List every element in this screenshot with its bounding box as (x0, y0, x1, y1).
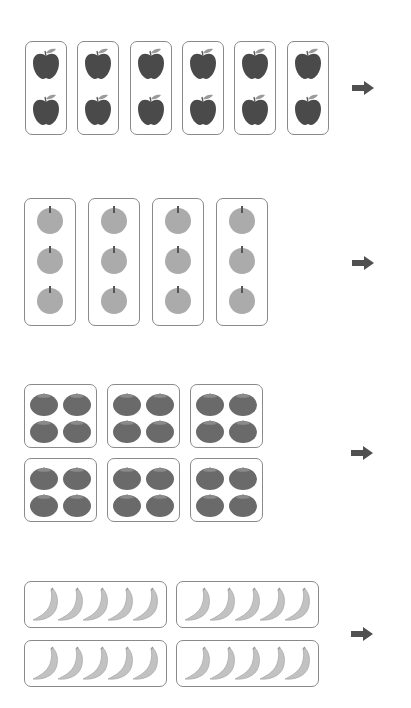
tomato-icon (112, 390, 142, 416)
apple-icon (99, 283, 129, 315)
tomato-icon (29, 390, 59, 416)
apple-icon (99, 243, 129, 275)
apple-box (287, 41, 329, 135)
right-arrow-icon (351, 446, 373, 460)
tomato-icon (29, 464, 59, 490)
banana-icon (131, 646, 161, 682)
apple-box (88, 198, 140, 326)
banana-box (24, 640, 167, 687)
tomato-icon (112, 491, 142, 517)
apple-icon (163, 243, 193, 275)
apple-icon (35, 283, 65, 315)
apple-icon (227, 203, 257, 235)
tomato-box (190, 384, 263, 448)
apple-box (182, 41, 224, 135)
apple-icon (35, 243, 65, 275)
apple-icon (227, 243, 257, 275)
apple-box (234, 41, 276, 135)
apple-icon (163, 203, 193, 235)
tomato-box (107, 384, 180, 448)
tomato-box (24, 458, 97, 522)
tomato-icon (195, 464, 225, 490)
apple-box (24, 198, 76, 326)
apple-icon (227, 283, 257, 315)
tomato-icon (112, 464, 142, 490)
tomato-icon (145, 491, 175, 517)
tomato-icon (195, 417, 225, 443)
tomato-icon (62, 464, 92, 490)
apple-box (216, 198, 268, 326)
apple-icon (293, 94, 323, 126)
apple-icon (35, 203, 65, 235)
apple-icon (240, 48, 270, 80)
banana-icon (131, 587, 161, 623)
apple-icon (188, 94, 218, 126)
banana-box (176, 640, 319, 687)
tomato-icon (62, 417, 92, 443)
right-arrow-icon (352, 256, 374, 270)
tomato-box (24, 384, 97, 448)
tomato-icon (228, 464, 258, 490)
tomato-icon (195, 491, 225, 517)
banana-icon (283, 646, 313, 682)
apple-icon (136, 48, 166, 80)
apple-box (152, 198, 204, 326)
apple-box (130, 41, 172, 135)
apple-icon (83, 94, 113, 126)
tomato-icon (29, 491, 59, 517)
apple-icon (136, 94, 166, 126)
tomato-icon (29, 417, 59, 443)
tomato-icon (62, 491, 92, 517)
tomato-box (107, 458, 180, 522)
apple-icon (163, 283, 193, 315)
apple-box (77, 41, 119, 135)
right-arrow-icon (351, 627, 373, 641)
banana-box (24, 581, 167, 628)
apple-icon (31, 48, 61, 80)
tomato-icon (145, 464, 175, 490)
apple-icon (240, 94, 270, 126)
tomato-icon (145, 390, 175, 416)
apple-icon (99, 203, 129, 235)
apple-icon (83, 48, 113, 80)
tomato-icon (228, 390, 258, 416)
banana-icon (283, 587, 313, 623)
apple-icon (188, 48, 218, 80)
banana-box (176, 581, 319, 628)
tomato-icon (195, 390, 225, 416)
right-arrow-icon (352, 81, 374, 95)
tomato-icon (112, 417, 142, 443)
apple-icon (31, 94, 61, 126)
apple-box (25, 41, 67, 135)
tomato-icon (228, 491, 258, 517)
tomato-icon (145, 417, 175, 443)
tomato-icon (62, 390, 92, 416)
tomato-icon (228, 417, 258, 443)
tomato-box (190, 458, 263, 522)
apple-icon (293, 48, 323, 80)
